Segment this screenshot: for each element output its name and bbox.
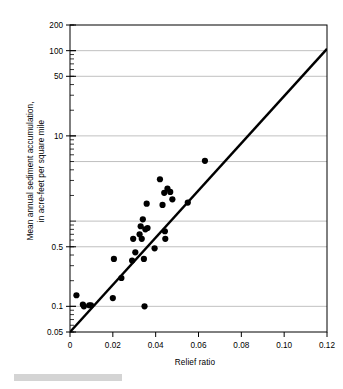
- data-point: [140, 216, 146, 222]
- gridlines: [70, 51, 327, 307]
- data-point: [141, 303, 147, 309]
- data-point: [167, 189, 173, 195]
- y-axis-title-line2: in acre-feet per square mile: [36, 51, 47, 291]
- y-tick-label: 100: [49, 47, 63, 56]
- y-axis-title-line1: Mean annual sediment accumulation,: [25, 51, 36, 291]
- scatter-plot: 0.050.10.5105010020000.020.040.060.080.1…: [0, 0, 343, 389]
- y-axis-minor-ticks: [70, 25, 76, 332]
- x-tick-label: 0.06: [191, 341, 207, 350]
- scatter-series: [73, 158, 208, 310]
- data-point: [162, 228, 168, 234]
- data-point: [81, 303, 87, 309]
- data-point: [73, 292, 79, 298]
- x-tick-label: 0.12: [319, 341, 335, 350]
- data-point: [162, 236, 168, 242]
- data-point: [169, 196, 175, 202]
- data-point: [144, 225, 150, 231]
- data-point: [159, 202, 165, 208]
- y-tick-label: 50: [54, 72, 64, 81]
- data-layer: [70, 49, 327, 332]
- data-point: [110, 295, 116, 301]
- x-tick-label: 0: [68, 341, 73, 350]
- caption-placeholder-bar: [14, 374, 122, 381]
- plot-frame: [70, 25, 327, 332]
- x-axis-tick-labels: 00.020.040.060.080.100.12: [68, 332, 336, 350]
- trend-line: [70, 49, 327, 332]
- y-axis-title: Mean annual sediment accumulation, in ac…: [25, 51, 47, 291]
- data-point: [141, 256, 147, 262]
- data-point: [144, 201, 150, 207]
- data-point: [139, 236, 145, 242]
- data-point: [111, 256, 117, 262]
- data-point: [88, 302, 94, 308]
- data-point: [132, 249, 138, 255]
- y-tick-label: 200: [49, 21, 63, 30]
- x-tick-label: 0.10: [276, 341, 292, 350]
- data-point: [118, 275, 124, 281]
- x-tick-label: 0.08: [233, 341, 249, 350]
- chart-figure: 0.050.10.5105010020000.020.040.060.080.1…: [0, 0, 343, 389]
- data-point: [185, 199, 191, 205]
- y-tick-label: 0.1: [52, 302, 64, 311]
- y-axis-tick-labels: 0.050.10.51050100200: [47, 21, 76, 337]
- data-point: [157, 176, 163, 182]
- x-axis-title: Relief ratio: [60, 358, 330, 367]
- data-point: [202, 158, 208, 164]
- x-tick-label: 0.02: [105, 341, 121, 350]
- data-point: [129, 257, 135, 263]
- y-tick-label: 0.05: [47, 328, 63, 337]
- y-tick-label: 10: [54, 132, 64, 141]
- data-point: [130, 236, 136, 242]
- x-tick-label: 0.04: [148, 341, 164, 350]
- y-tick-label: 0.5: [52, 243, 64, 252]
- data-point: [152, 245, 158, 251]
